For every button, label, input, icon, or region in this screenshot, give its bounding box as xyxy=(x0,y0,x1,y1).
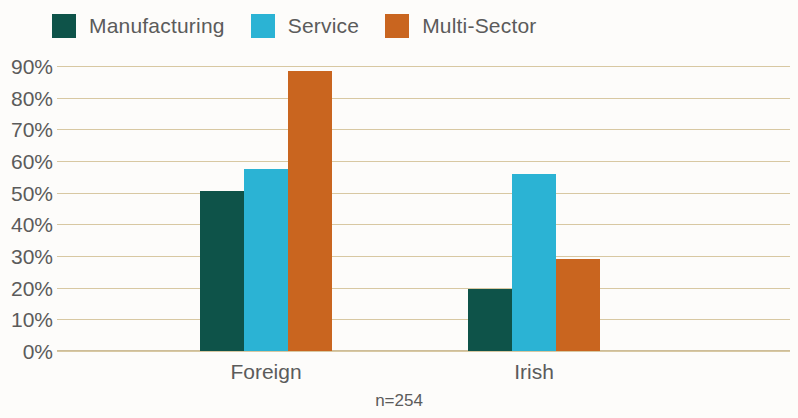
x-axis-category-label: Irish xyxy=(514,360,554,384)
gridline xyxy=(57,256,790,257)
legend-label-service: Service xyxy=(288,14,359,38)
gridline xyxy=(57,129,790,130)
y-axis-tick-label: 50% xyxy=(3,182,53,203)
legend-label-manufacturing: Manufacturing xyxy=(89,14,225,38)
gridline xyxy=(57,351,790,352)
legend-swatch-service xyxy=(251,14,275,38)
bar[interactable] xyxy=(200,191,244,351)
bar[interactable] xyxy=(556,259,600,351)
plot-area xyxy=(57,66,790,351)
gridline xyxy=(57,224,790,225)
legend-swatch-multi-sector xyxy=(385,14,409,38)
gridline xyxy=(57,66,790,67)
gridline xyxy=(57,319,790,320)
gridline xyxy=(57,288,790,289)
y-axis-tick-label: 0% xyxy=(3,341,53,362)
y-axis-tick-labels: 0%10%20%30%40%50%60%70%80%90% xyxy=(0,66,53,351)
sample-size-note: n=254 xyxy=(375,391,423,411)
y-axis-tick-label: 80% xyxy=(3,87,53,108)
chart-legend: Manufacturing Service Multi-Sector xyxy=(52,9,563,43)
y-axis-tick-label: 70% xyxy=(3,119,53,140)
legend-item-manufacturing[interactable]: Manufacturing xyxy=(52,14,225,38)
y-axis-tick-label: 10% xyxy=(3,309,53,330)
y-axis-tick-label: 60% xyxy=(3,151,53,172)
bar[interactable] xyxy=(468,289,512,351)
legend-swatch-manufacturing xyxy=(52,14,76,38)
bar-chart: Manufacturing Service Multi-Sector 0%10%… xyxy=(0,0,798,418)
y-axis-tick-label: 20% xyxy=(3,277,53,298)
bar[interactable] xyxy=(288,71,332,351)
legend-item-multi-sector[interactable]: Multi-Sector xyxy=(385,14,536,38)
y-axis-tick-label: 30% xyxy=(3,246,53,267)
bar[interactable] xyxy=(244,169,288,351)
legend-item-service[interactable]: Service xyxy=(251,14,359,38)
gridline xyxy=(57,98,790,99)
gridline xyxy=(57,193,790,194)
legend-label-multi-sector: Multi-Sector xyxy=(422,14,536,38)
bar[interactable] xyxy=(512,174,556,351)
gridline xyxy=(57,161,790,162)
y-axis-tick-label: 40% xyxy=(3,214,53,235)
x-axis-category-label: Foreign xyxy=(230,360,301,384)
y-axis-tick-label: 90% xyxy=(3,56,53,77)
